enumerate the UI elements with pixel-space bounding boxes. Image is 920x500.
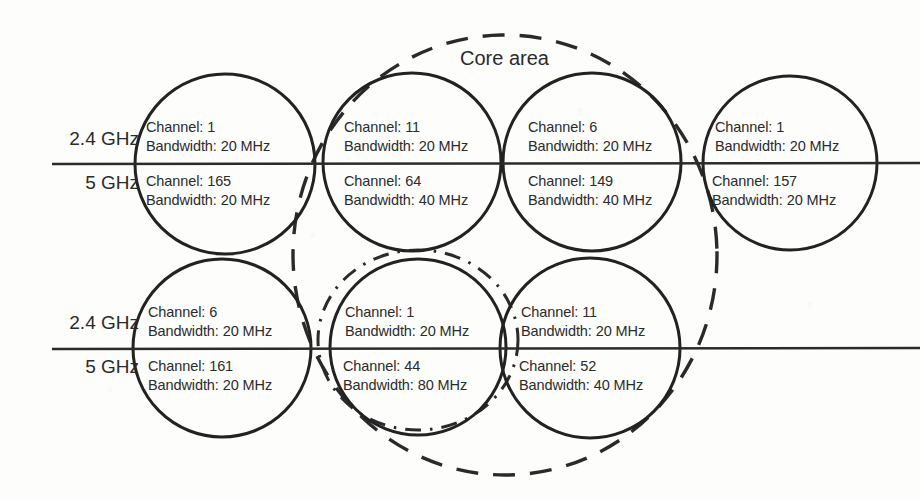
cell-r1c3-upper-channel: Channel: 6: [528, 118, 597, 137]
row1-band-label-upper: 2.4 GHz: [34, 128, 139, 150]
cell-r1c3-lower-bandwidth: Bandwidth: 40 MHz: [528, 191, 652, 210]
cell-r1c2-lower-channel: Channel: 64: [344, 172, 421, 191]
cell-r2c2-lower-bandwidth: Bandwidth: 80 MHz: [343, 376, 467, 395]
cell-r2c3-upper-bandwidth: Bandwidth: 20 MHz: [521, 322, 645, 341]
diagram-canvas: Core area 2.4 GHz 5 GHz 2.4 GHz 5 GHz Ch…: [0, 0, 920, 500]
cell-r2c1-lower-bandwidth: Bandwidth: 20 MHz: [148, 376, 272, 395]
cell-r1c4-upper-channel: Channel: 1: [715, 118, 784, 137]
band-divider-line-top-row: [52, 163, 920, 164]
cell-r2c2-upper-bandwidth: Bandwidth: 20 MHz: [345, 322, 469, 341]
cell-r1c3-upper-bandwidth: Bandwidth: 20 MHz: [528, 137, 652, 156]
cell-r2c2-upper-channel: Channel: 1: [345, 303, 414, 322]
cell-r2c3-lower-channel: Channel: 52: [519, 357, 596, 376]
row2-band-label-lower: 5 GHz: [34, 356, 139, 378]
cell-r1c1-lower-channel: Channel: 165: [146, 172, 231, 191]
cell-circle-r1c3[interactable]: [503, 73, 681, 251]
cell-r1c1-upper-channel: Channel: 1: [146, 118, 215, 137]
row1-band-label-lower: 5 GHz: [34, 172, 139, 194]
cell-r1c2-lower-bandwidth: Bandwidth: 40 MHz: [344, 191, 468, 210]
cell-r2c1-lower-channel: Channel: 161: [148, 357, 233, 376]
cell-r2c3-lower-bandwidth: Bandwidth: 40 MHz: [519, 376, 643, 395]
cell-r1c2-upper-bandwidth: Bandwidth: 20 MHz: [344, 137, 468, 156]
cell-r1c3-lower-channel: Channel: 149: [528, 172, 613, 191]
cell-r1c4-lower-channel: Channel: 157: [712, 172, 797, 191]
cell-circle-r1c2[interactable]: [323, 73, 501, 251]
band-divider-line-bottom-row: [52, 348, 920, 349]
cell-circle-r2c2[interactable]: [330, 259, 506, 435]
core-area-label: Core area: [460, 47, 549, 70]
diagram-svg: [0, 0, 920, 500]
cell-r2c3-upper-channel: Channel: 11: [521, 303, 597, 322]
cell-r1c4-upper-bandwidth: Bandwidth: 20 MHz: [715, 137, 839, 156]
cell-r1c2-upper-channel: Channel: 11: [344, 118, 420, 137]
cell-r1c4-lower-bandwidth: Bandwidth: 20 MHz: [712, 191, 836, 210]
row2-band-label-upper: 2.4 GHz: [34, 312, 139, 334]
cell-r2c1-upper-bandwidth: Bandwidth: 20 MHz: [148, 322, 272, 341]
cell-r2c2-lower-channel: Channel: 44: [343, 357, 420, 376]
cell-r1c1-upper-bandwidth: Bandwidth: 20 MHz: [146, 137, 270, 156]
cell-r2c1-upper-channel: Channel: 6: [148, 303, 217, 322]
cell-r1c1-lower-bandwidth: Bandwidth: 20 MHz: [146, 191, 270, 210]
